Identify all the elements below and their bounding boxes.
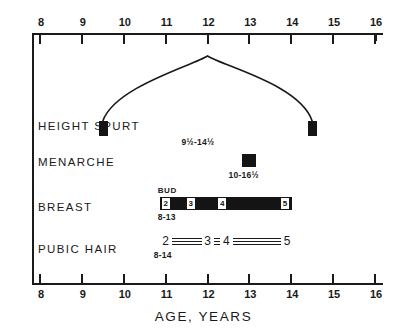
menarche-marker <box>242 154 256 167</box>
breast-stage-2-chip: 2 <box>162 198 170 209</box>
bottom-tick-10 <box>123 274 125 283</box>
bottom-tick-label-14: 14 <box>281 288 303 300</box>
top-tick-label-9: 9 <box>72 16 94 28</box>
top-tick-label-16: 16 <box>365 16 387 28</box>
top-tick-label-13: 13 <box>239 16 261 28</box>
top-tick-8 <box>39 35 41 44</box>
height-spurt-range-caption: 9½-14½ <box>182 137 215 147</box>
pubic-hair-stage-2: 2 <box>160 235 172 248</box>
bottom-tick-8 <box>39 274 41 283</box>
top-tick-label-14: 14 <box>281 16 303 28</box>
bottom-tick-12 <box>207 274 209 283</box>
bottom-tick-label-12: 12 <box>198 288 220 300</box>
top-tick-12 <box>207 35 209 44</box>
breast-stage-bar: 2 3 4 5 <box>160 197 292 210</box>
pubic-hair-stage-5: 5 <box>281 235 293 248</box>
bottom-tick-label-8: 8 <box>30 288 52 300</box>
top-tick-15 <box>332 35 334 44</box>
bottom-tick-label-13: 13 <box>239 288 261 300</box>
bottom-tick-label-10: 10 <box>114 288 136 300</box>
row-label-height-spurt: HEIGHT SPURT <box>38 120 140 133</box>
top-tick-label-12: 12 <box>198 16 220 28</box>
left-frame-line <box>32 33 34 283</box>
row-label-breast: BREAST <box>38 201 92 214</box>
x-axis-title: AGE, YEARS <box>0 309 407 325</box>
row-label-pubic-hair: PUBIC HAIR <box>38 243 118 256</box>
height-spurt-end-marker <box>308 121 317 136</box>
breast-bud-label: BUD <box>158 186 177 195</box>
pubic-hair-stage-3: 3 <box>202 235 214 248</box>
top-tick-11 <box>165 35 167 44</box>
breast-range-caption: 8-13 <box>158 212 176 222</box>
pubic-hair-range-caption: 8-14 <box>154 250 172 260</box>
row-label-menarche: MENARCHE <box>38 156 115 169</box>
top-tick-label-15: 15 <box>323 16 345 28</box>
bottom-tick-label-15: 15 <box>323 288 345 300</box>
menarche-range-caption: 10-16½ <box>228 170 259 180</box>
top-tick-10 <box>123 35 125 44</box>
breast-stage-4-chip: 4 <box>218 198 226 209</box>
bottom-tick-label-16: 16 <box>365 288 387 300</box>
top-tick-label-10: 10 <box>114 16 136 28</box>
top-tick-9 <box>81 35 83 44</box>
top-tick-13 <box>248 35 250 44</box>
top-tick-label-8: 8 <box>30 16 52 28</box>
bottom-tick-13 <box>248 274 250 283</box>
top-tick-14 <box>290 35 292 44</box>
bottom-tick-label-11: 11 <box>156 288 178 300</box>
bottom-tick-14 <box>290 274 292 283</box>
right-frame-line <box>375 33 377 41</box>
pubic-hair-rail-4-5 <box>233 238 281 245</box>
pubic-hair-stage-4: 4 <box>220 235 232 248</box>
bottom-tick-11 <box>165 274 167 283</box>
bottom-axis-line <box>32 283 383 285</box>
pubic-hair-rail-3-4 <box>214 238 221 245</box>
breast-stage-3-chip: 3 <box>187 198 195 209</box>
bottom-tick-16 <box>374 274 376 283</box>
bottom-tick-label-9: 9 <box>72 288 94 300</box>
height-spurt-start-marker <box>99 121 108 136</box>
bottom-tick-15 <box>332 274 334 283</box>
breast-stage-5-chip: 5 <box>281 198 289 209</box>
pubic-hair-rail-2-3 <box>172 238 202 245</box>
top-tick-label-11: 11 <box>156 16 178 28</box>
pubertal-development-chart: 8910111213141516 HEIGHT SPURT 9½-14½ MEN… <box>0 0 407 329</box>
bottom-tick-9 <box>81 274 83 283</box>
